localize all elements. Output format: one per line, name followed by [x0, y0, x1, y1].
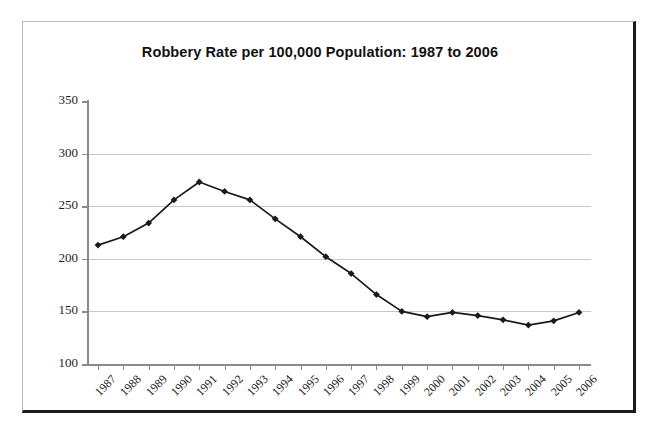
- gridline-150: [88, 311, 591, 312]
- x-tick-mark-1999: [402, 365, 403, 370]
- x-tick-mark-2000: [427, 365, 428, 370]
- y-axis-line: [87, 100, 89, 365]
- y-tick-label-350: 350: [34, 92, 78, 108]
- x-tick-mark-2003: [503, 365, 504, 370]
- x-tick-mark-1998: [376, 365, 377, 370]
- y-tick-mark-150: [82, 311, 87, 313]
- x-tick-mark-1994: [275, 365, 276, 370]
- y-tick-label-150: 150: [34, 302, 78, 318]
- x-tick-mark-2005: [554, 365, 555, 370]
- x-axis-line: [87, 364, 591, 366]
- y-tick-mark-100: [82, 364, 87, 366]
- y-tick-mark-350: [82, 101, 87, 103]
- chart-figure: Robbery Rate per 100,000 Population: 198…: [0, 0, 669, 448]
- y-tick-label-100: 100: [34, 355, 78, 371]
- x-tick-mark-1987: [98, 365, 99, 370]
- x-tick-mark-1991: [199, 365, 200, 370]
- x-tick-mark-1997: [351, 365, 352, 370]
- gridline-250: [88, 206, 591, 207]
- y-tick-label-200: 200: [34, 250, 78, 266]
- x-tick-mark-1989: [149, 365, 150, 370]
- x-tick-mark-1990: [174, 365, 175, 370]
- y-tick-mark-200: [82, 259, 87, 261]
- gridline-200: [88, 259, 591, 260]
- x-tick-mark-1995: [301, 365, 302, 370]
- y-tick-label-250: 250: [34, 197, 78, 213]
- x-tick-mark-2002: [478, 365, 479, 370]
- x-tick-mark-2004: [528, 365, 529, 370]
- y-tick-label-300: 300: [34, 145, 78, 161]
- x-tick-mark-2001: [452, 365, 453, 370]
- gridline-300: [88, 154, 591, 155]
- x-tick-mark-1992: [225, 365, 226, 370]
- y-tick-mark-250: [82, 206, 87, 208]
- plot-area: [88, 101, 591, 364]
- x-tick-mark-1993: [250, 365, 251, 370]
- x-tick-mark-1988: [123, 365, 124, 370]
- y-tick-mark-300: [82, 154, 87, 156]
- chart-title: Robbery Rate per 100,000 Population: 198…: [60, 44, 580, 60]
- x-tick-mark-1996: [326, 365, 327, 370]
- x-tick-mark-2006: [579, 365, 580, 370]
